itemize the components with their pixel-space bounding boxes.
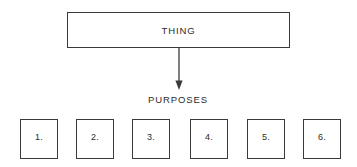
purpose-box-2[interactable]: 2. — [76, 119, 114, 159]
purpose-box-1[interactable]: 1. — [20, 119, 58, 159]
purpose-number-4: 4. — [191, 132, 227, 142]
thing-label: THING — [161, 25, 195, 36]
purpose-box-5[interactable]: 5. — [247, 119, 285, 159]
purpose-number-1: 1. — [21, 132, 57, 142]
thing-box[interactable]: THING — [67, 12, 290, 48]
purpose-box-3[interactable]: 3. — [132, 119, 170, 159]
purposes-label-text: PURPOSES — [148, 94, 208, 105]
purpose-number-6: 6. — [304, 132, 340, 142]
purpose-number-3: 3. — [133, 132, 169, 142]
diagram-canvas: THING PURPOSES 1. 2. 3. 4. 5. 6. — [0, 0, 357, 167]
down-arrow-icon — [168, 48, 190, 92]
purposes-row: 1. 2. 3. 4. 5. 6. — [0, 119, 357, 160]
purpose-box-4[interactable]: 4. — [190, 119, 228, 159]
purpose-box-6[interactable]: 6. — [303, 119, 341, 159]
purpose-number-5: 5. — [248, 132, 284, 142]
purposes-label: PURPOSES — [0, 94, 357, 105]
purpose-number-2: 2. — [77, 132, 113, 142]
